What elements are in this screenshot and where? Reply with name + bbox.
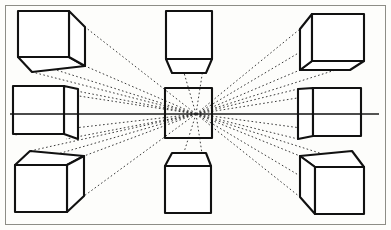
cube-face-bottom	[166, 59, 212, 73]
cube-face-front	[313, 88, 361, 136]
cube-face-front	[13, 86, 64, 134]
cube-face-front	[315, 167, 364, 214]
cube-bottom-right	[300, 151, 364, 214]
cube-face-front	[18, 11, 69, 57]
cube-face-front	[166, 11, 212, 59]
cube-top-center	[166, 11, 212, 73]
cube-face-front	[165, 166, 211, 213]
cube-face-side	[64, 86, 78, 139]
cube-face-top	[165, 153, 211, 166]
cube-face-front	[15, 165, 67, 212]
cube-middle-left	[13, 86, 78, 139]
cube-middle-right	[298, 88, 361, 139]
cube-bottom-left	[15, 151, 84, 212]
perspective-diagram	[0, 0, 391, 230]
diagram-canvas	[0, 0, 391, 230]
cube-face-front	[312, 14, 364, 61]
cube-top-left	[18, 11, 85, 72]
cube-bottom-center	[165, 153, 211, 213]
cube-top-right	[300, 14, 364, 70]
